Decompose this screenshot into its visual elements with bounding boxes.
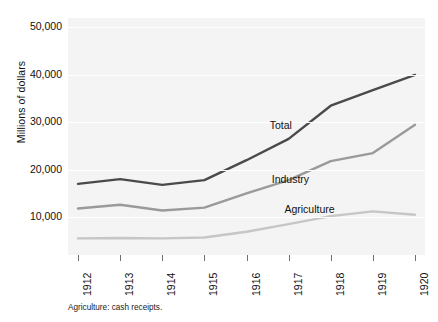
chart-caption: Agriculture: cash receipts. [68,303,162,312]
plot-area: TotalIndustryAgriculture [68,18,425,255]
gridline [68,75,425,76]
series-line [78,125,415,211]
x-tick-label: 1913 [124,273,135,296]
x-tick-mark [204,255,205,261]
series-line [78,211,415,238]
x-tick-mark [162,255,163,261]
y-axis-tick-labels: 50,00040,00030,00020,00010,000 [6,0,62,322]
x-tick-mark [120,255,121,261]
y-tick-label: 30,000 [8,116,62,127]
x-tick-label: 1916 [251,273,262,296]
x-tick-mark [415,255,416,261]
x-tick-label: 1912 [82,273,93,296]
y-tick-label: 40,000 [8,69,62,80]
x-tick-mark [331,255,332,261]
series-label: Total [270,119,292,131]
y-tick-label: 10,000 [8,211,62,222]
x-tick-label: 1917 [293,273,304,296]
x-tick-mark [289,255,290,261]
gridline [68,170,425,171]
gridline [68,27,425,28]
x-tick-label: 1919 [377,273,388,296]
x-tick-mark [78,255,79,261]
x-axis-tick-labels: 191219131914191519161917191819191920 [68,262,425,308]
series-lines [68,18,425,255]
x-tick-mark [247,255,248,261]
x-tick-label: 1920 [419,273,430,296]
gridline [68,217,425,218]
chart-figure: Millions of dollars 50,00040,00030,00020… [0,0,438,322]
x-tick-label: 1918 [335,273,346,296]
series-label: Industry [272,173,309,185]
y-tick-label: 20,000 [8,164,62,175]
x-tick-label: 1915 [208,273,219,296]
x-tick-mark [373,255,374,261]
y-tick-label: 50,000 [8,21,62,32]
gridline [68,122,425,123]
series-line [78,75,415,185]
series-label: Agriculture [284,203,334,215]
x-tick-label: 1914 [166,273,177,296]
